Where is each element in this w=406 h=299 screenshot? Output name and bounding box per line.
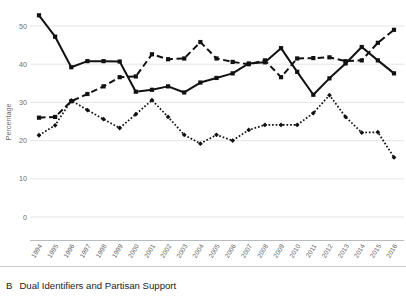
data-point (343, 59, 347, 63)
data-point (182, 56, 186, 60)
series-group (37, 13, 397, 160)
series-dashed (37, 28, 396, 120)
data-point (101, 59, 105, 63)
data-point (279, 123, 284, 128)
data-point (37, 116, 41, 120)
data-point (150, 88, 154, 92)
x-tick-label: 1998 (94, 243, 108, 259)
y-axis-tick-labels: 01020304050 (19, 22, 27, 222)
data-point (327, 93, 332, 98)
data-point (327, 76, 331, 80)
series-dashed-path (39, 30, 394, 118)
x-tick-label: 2015 (369, 243, 383, 259)
data-point (198, 40, 202, 44)
data-point (37, 13, 41, 17)
x-tick-label: 2008 (256, 243, 270, 259)
data-point (134, 90, 138, 94)
data-point (101, 84, 105, 88)
data-point (214, 132, 219, 137)
data-point (295, 56, 299, 60)
data-point (295, 70, 299, 74)
data-point (231, 60, 235, 64)
data-point (279, 46, 283, 50)
data-point (376, 58, 380, 62)
x-tick-label: 2000 (126, 243, 140, 259)
data-point (134, 74, 138, 78)
data-point (311, 56, 315, 60)
data-point (247, 62, 251, 66)
data-point (150, 52, 154, 56)
data-point (392, 71, 396, 75)
x-tick-label: 2012 (320, 243, 334, 259)
y-tick-label: 0 (23, 213, 27, 222)
x-tick-label: 1994 (30, 243, 44, 259)
figure-panel: 01020304050 Percentage 19941995199619971… (0, 0, 406, 299)
chart-svg: 01020304050 Percentage 19941995199619971… (0, 0, 406, 268)
data-point (327, 55, 331, 59)
y-tick-label: 50 (19, 22, 27, 31)
data-point (53, 35, 57, 39)
x-tick-label: 2004 (191, 243, 205, 259)
data-point (311, 93, 315, 97)
x-tick-label: 2001 (143, 243, 157, 259)
data-point (85, 59, 89, 63)
x-tick-label: 1999 (110, 243, 124, 259)
data-point (263, 58, 267, 62)
data-point (231, 71, 235, 75)
figure-caption: B Dual Identifiers and Partisan Support (0, 272, 406, 299)
x-tick-label: 2009 (272, 243, 286, 259)
x-tick-label: 2014 (352, 243, 366, 259)
x-tick-label: 1996 (62, 243, 76, 259)
x-tick-label: 1997 (78, 243, 92, 259)
y-tick-label: 40 (19, 60, 27, 69)
data-point (182, 90, 186, 94)
y-tick-label: 10 (19, 174, 27, 183)
data-point (53, 115, 57, 119)
data-point (214, 56, 218, 60)
data-point (53, 123, 58, 128)
y-tick-label: 20 (19, 136, 27, 145)
data-point (37, 133, 42, 138)
y-tick-label: 30 (19, 98, 27, 107)
x-tick-label: 2016 (385, 243, 399, 259)
data-point (263, 123, 268, 128)
x-tick-label: 2003 (175, 243, 189, 259)
data-point (360, 45, 364, 49)
data-point (166, 57, 170, 61)
data-point (360, 58, 364, 62)
line-chart: 01020304050 Percentage 19941995199619971… (0, 0, 406, 268)
x-tick-label: 2011 (304, 243, 318, 259)
x-axis-tick-labels: 1994199519961997199819992000200120022003… (30, 243, 399, 259)
x-tick-label: 2006 (223, 243, 237, 259)
data-point (214, 76, 218, 80)
caption-text: Dual Identifiers and Partisan Support (19, 280, 176, 291)
data-point (279, 75, 283, 79)
x-tick-label: 2010 (288, 243, 302, 259)
data-point (85, 92, 89, 96)
data-point (295, 123, 300, 128)
data-point (118, 59, 122, 63)
x-tick-label: 2013 (336, 243, 350, 259)
data-point (69, 65, 73, 69)
gridlines-group (30, 26, 404, 217)
data-point (198, 80, 202, 84)
data-point (230, 138, 235, 143)
data-point (376, 41, 380, 45)
data-point (392, 28, 396, 32)
x-tick-label: 2002 (159, 243, 173, 259)
caption-letter: B (6, 280, 12, 291)
data-point (166, 84, 170, 88)
x-tick-label: 2007 (239, 243, 253, 259)
x-tick-label: 2005 (207, 243, 221, 259)
series-solid-path (39, 15, 394, 94)
y-axis-title: Percentage (4, 104, 13, 141)
data-point (166, 115, 171, 120)
data-point (246, 128, 251, 133)
data-point (118, 75, 122, 79)
x-tick-label: 1995 (46, 243, 60, 259)
series-dotted-path (39, 95, 394, 157)
